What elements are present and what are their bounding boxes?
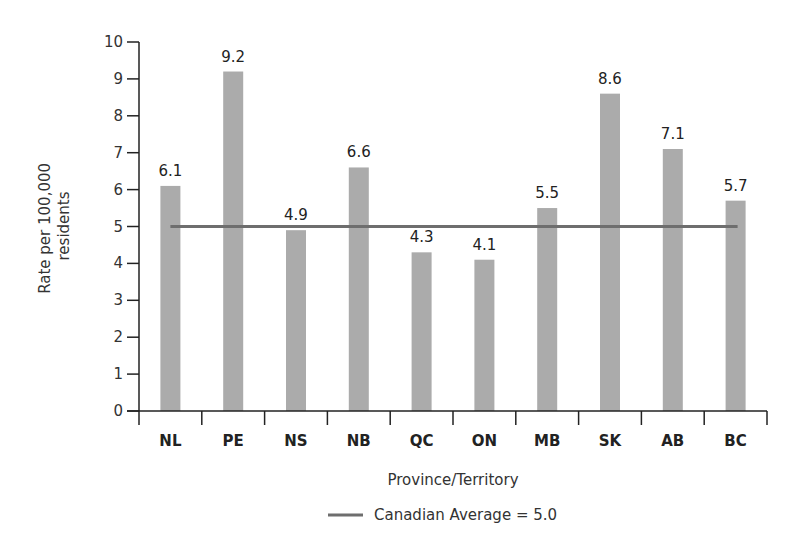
y-tick-label: 7 bbox=[113, 144, 123, 162]
y-tick-label: 8 bbox=[113, 107, 123, 125]
data-label-nb: 6.6 bbox=[347, 143, 371, 161]
data-label-nl: 6.1 bbox=[158, 162, 182, 180]
y-axis-title: Rate per 100,000 residents bbox=[36, 158, 73, 294]
y-tick-label: 9 bbox=[113, 70, 123, 88]
legend-label: Canadian Average = 5.0 bbox=[374, 506, 557, 524]
y-tick-label: 6 bbox=[113, 181, 123, 199]
bars bbox=[160, 72, 745, 411]
x-tick-label: NB bbox=[347, 432, 371, 450]
bar-sk bbox=[600, 94, 620, 411]
x-tick-label: AB bbox=[661, 432, 684, 450]
data-label-ab: 7.1 bbox=[661, 125, 685, 143]
x-tick-label: BC bbox=[724, 432, 746, 450]
x-tick-label: SK bbox=[599, 432, 623, 450]
y-tick-label: 2 bbox=[113, 328, 123, 346]
data-label-mb: 5.5 bbox=[535, 184, 559, 202]
y-tick-label: 5 bbox=[113, 218, 123, 236]
y-tick-label: 10 bbox=[104, 33, 123, 51]
x-tick-label: PE bbox=[223, 432, 244, 450]
y-tick-label: 1 bbox=[113, 365, 123, 383]
bar-chart: NLPENSNBQCONMBSKABBC012345678910 6.19.24… bbox=[0, 0, 799, 548]
bar-bc bbox=[726, 201, 746, 411]
legend: Canadian Average = 5.0 bbox=[328, 506, 557, 524]
data-label-qc: 4.3 bbox=[410, 228, 434, 246]
bar-nl bbox=[160, 186, 180, 411]
y-tick-label: 0 bbox=[113, 402, 123, 420]
x-tick-label: NS bbox=[284, 432, 307, 450]
bar-ns bbox=[286, 230, 306, 411]
data-label-pe: 9.2 bbox=[221, 48, 245, 66]
bar-qc bbox=[412, 252, 432, 411]
x-tick-label: NL bbox=[159, 432, 182, 450]
data-label-bc: 5.7 bbox=[724, 177, 748, 195]
data-labels: 6.19.24.96.64.34.15.58.67.15.7 bbox=[158, 48, 747, 254]
x-tick-label: QC bbox=[410, 432, 434, 450]
x-axis-title: Province/Territory bbox=[387, 471, 518, 489]
x-tick-label: ON bbox=[472, 432, 497, 450]
data-label-sk: 8.6 bbox=[598, 70, 622, 88]
x-tick-label: MB bbox=[534, 432, 560, 450]
bar-on bbox=[474, 260, 494, 411]
y-tick-label: 3 bbox=[113, 291, 123, 309]
y-tick-label: 4 bbox=[113, 254, 123, 272]
data-label-on: 4.1 bbox=[472, 236, 496, 254]
bar-ab bbox=[663, 149, 683, 411]
bar-pe bbox=[223, 72, 243, 411]
bar-nb bbox=[349, 167, 369, 411]
data-label-ns: 4.9 bbox=[284, 206, 308, 224]
bar-mb bbox=[537, 208, 557, 411]
axis-titles: Rate per 100,000 residents Province/Terr… bbox=[36, 158, 519, 489]
